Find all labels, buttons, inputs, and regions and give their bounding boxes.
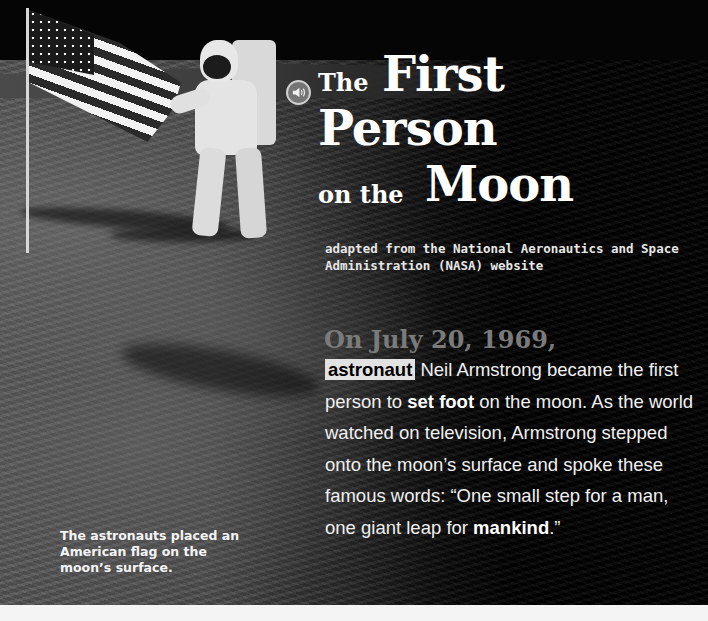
title-moon: Moon xyxy=(425,156,573,212)
title-line-2: Person xyxy=(318,100,497,156)
photo-caption: The astronauts placed an American flag o… xyxy=(60,528,240,576)
astronaut-visor xyxy=(203,55,231,79)
flag-pole xyxy=(26,8,29,253)
title-first: First xyxy=(382,46,504,102)
page-bottom-margin xyxy=(0,605,708,621)
vocab-word-mankind[interactable]: mankind xyxy=(473,517,549,538)
article-body: astronaut Neil Armstrong became the firs… xyxy=(325,354,700,543)
vocab-word-set-foot[interactable]: set foot xyxy=(407,391,474,412)
speaker-icon xyxy=(291,85,306,100)
title-on-the: on the xyxy=(318,180,404,209)
lead-date: On July 20, 1969, xyxy=(324,325,556,354)
audio-play-button[interactable] xyxy=(286,80,311,105)
vocab-word-astronaut[interactable]: astronaut xyxy=(325,359,415,380)
astronaut-shadow xyxy=(110,228,260,242)
title-person: Person xyxy=(318,100,497,156)
source-attribution: adapted from the National Aeronautics an… xyxy=(325,240,705,274)
title-the: The xyxy=(318,68,369,97)
article-page: The First Person on the Moon adapted fro… xyxy=(0,0,708,605)
body-text-2: on the moon. As the world watched on tel… xyxy=(325,391,693,538)
body-text-3: .” xyxy=(549,517,560,538)
